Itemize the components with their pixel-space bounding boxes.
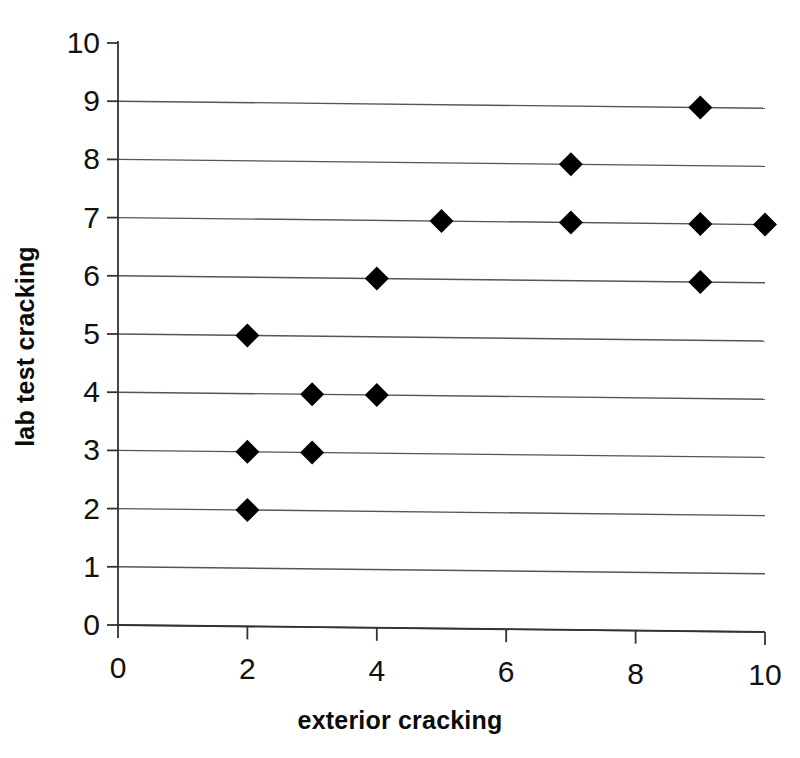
gridline-y-6 bbox=[118, 276, 765, 283]
data-point-marker bbox=[300, 382, 324, 406]
plot-area bbox=[0, 0, 800, 758]
data-point-marker bbox=[688, 270, 712, 294]
scatter-chart: 012345678910 0246810 lab test cracking e… bbox=[0, 0, 800, 758]
x-axis-title: exterior cracking bbox=[0, 706, 800, 735]
data-point-marker bbox=[365, 267, 389, 291]
data-point-marker bbox=[688, 96, 712, 120]
axis-lines-group bbox=[118, 41, 765, 632]
y-tick-label-5: 5 bbox=[40, 319, 100, 349]
data-point-marker bbox=[753, 213, 777, 237]
x-tick-label-0: 0 bbox=[110, 653, 127, 683]
data-point-marker bbox=[365, 383, 389, 407]
gridlines-group bbox=[118, 101, 765, 632]
gridline-y-4 bbox=[118, 392, 765, 399]
data-point-marker bbox=[430, 209, 454, 233]
y-tick-label-7: 7 bbox=[40, 203, 100, 233]
x-axis-line bbox=[118, 625, 765, 632]
y-tick-label-3: 3 bbox=[40, 435, 100, 465]
y-tick-label-9: 9 bbox=[40, 86, 100, 116]
gridline-y-9 bbox=[118, 101, 765, 108]
gridline-y-3 bbox=[118, 450, 765, 457]
x-tick-label-10: 10 bbox=[748, 660, 781, 690]
y-tick-label-0: 0 bbox=[40, 610, 100, 640]
data-point-marker bbox=[235, 498, 259, 522]
x-tick-label-6: 6 bbox=[498, 657, 515, 687]
axis-ticks-group bbox=[107, 43, 765, 645]
data-markers-group bbox=[235, 96, 777, 523]
data-point-marker bbox=[235, 440, 259, 464]
y-tick-label-4: 4 bbox=[40, 377, 100, 407]
x-tick-label-4: 4 bbox=[368, 656, 385, 686]
y-tick-label-1: 1 bbox=[40, 552, 100, 582]
y-tick-label-10: 10 bbox=[40, 28, 100, 58]
y-tick-label-6: 6 bbox=[40, 261, 100, 291]
y-axis-title: lab test cracking bbox=[11, 187, 40, 507]
x-tick-label-8: 8 bbox=[627, 659, 644, 689]
gridline-y-2 bbox=[118, 509, 765, 516]
data-point-marker bbox=[688, 212, 712, 236]
x-tick-label-2: 2 bbox=[239, 654, 256, 684]
data-point-marker bbox=[559, 152, 583, 176]
data-point-marker bbox=[300, 441, 324, 465]
gridline-y-5 bbox=[118, 334, 765, 341]
gridline-y-1 bbox=[118, 567, 765, 574]
gridline-y-8 bbox=[118, 159, 765, 166]
data-point-marker bbox=[235, 323, 259, 347]
y-tick-label-8: 8 bbox=[40, 144, 100, 174]
y-tick-label-2: 2 bbox=[40, 494, 100, 524]
data-point-marker bbox=[559, 211, 583, 235]
